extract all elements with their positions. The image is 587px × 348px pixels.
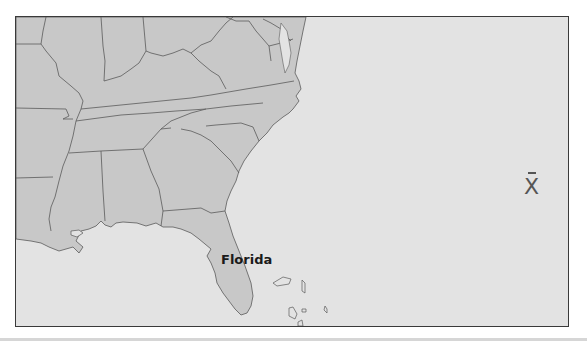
bottom-divider [0,338,587,341]
bahamas-islands [273,277,327,326]
macron-bar [528,172,536,174]
map-frame[interactable]: Florida [15,16,569,327]
florida-label: Florida [221,252,272,267]
land-southeast-us [16,17,306,315]
close-icon[interactable]: X [524,176,539,198]
map-svg[interactable] [16,17,569,327]
